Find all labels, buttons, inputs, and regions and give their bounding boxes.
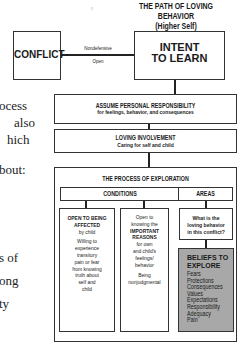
areas-header: AREAS (178, 187, 233, 201)
beliefs-to-explore-box: BELIEFS TO EXPLORE Fears Protections Con… (178, 248, 234, 332)
connector-vertical (85, 201, 87, 208)
small-icon: ♀ (89, 5, 94, 12)
assume-subtitle: for feelings, behavior, and consequences (71, 109, 219, 116)
open-to-knowing-box: Open to knowing the IMPORTANT REASONS fo… (120, 208, 169, 332)
assume-responsibility-box: ASSUME PERSONAL RESPONSIBILITY for feeli… (54, 94, 237, 124)
title-sub: (Higher Self) (122, 21, 230, 31)
body-text-fragment: ty (0, 296, 9, 312)
body-text-fragment: hich (7, 132, 29, 148)
affected-line2: AFFECTED (65, 222, 109, 229)
open-to-being-affected-box: OPEN TO BEING AFFECTED by child Willing … (59, 208, 115, 332)
question-box: What is the loving behavior in this conf… (179, 208, 233, 240)
title-main: THE PATH OF LOVING BEHAVIOR (122, 1, 230, 21)
connector-vertical (148, 153, 150, 167)
body-text-fragment: s of (0, 250, 18, 266)
connector-vertical (174, 80, 176, 94)
intent-line2: TO LEARN (135, 53, 224, 64)
affected-line3: by child (65, 229, 109, 236)
body-text-fragment: bout: (0, 162, 26, 178)
conditions-header: CONDITIONS (60, 187, 180, 201)
beliefs-title-line2: EXPLORE (187, 262, 233, 270)
conflict-label: CONFLICT (14, 49, 60, 60)
connector-label-bottom: Open (62, 58, 134, 64)
exploration-title: THE PROCESS OF EXPLORATION (71, 175, 219, 182)
beliefs-title-line1: BELIEFS TO (187, 254, 233, 262)
body-text-fragment: ong (0, 273, 19, 289)
body-text-fragment: also (14, 115, 35, 131)
connector-line (61, 54, 134, 56)
diagram-title: THE PATH OF LOVING BEHAVIOR (Higher Self… (110, 1, 242, 31)
affected-line1: OPEN TO BEING (65, 215, 109, 222)
assume-title: ASSUME PERSONAL RESPONSIBILITY (71, 102, 219, 109)
connector-label-top: Nondefensive (62, 45, 134, 51)
loving-subtitle: Caring for self and child (71, 142, 219, 150)
connector-vertical (143, 201, 145, 208)
loving-involvement-box: LOVING INVOLVEMENT Caring for self and c… (54, 129, 237, 153)
conflict-box: CONFLICT (13, 31, 61, 80)
loving-title: LOVING INVOLVEMENT (71, 134, 219, 142)
belief-item: Pain (187, 317, 226, 324)
body-text-fragment: ocess (0, 98, 27, 114)
connector-vertical (205, 201, 207, 208)
connector-vertical (205, 240, 207, 248)
intent-box: INTENT TO LEARN (134, 31, 225, 80)
